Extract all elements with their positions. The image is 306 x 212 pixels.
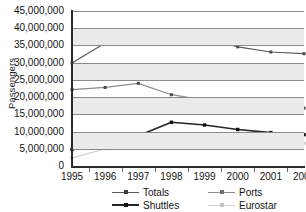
x-axis-tick-label: 2002 (293, 170, 306, 183)
x-axis-tick-mark (188, 168, 189, 172)
x-axis-tick-mark (122, 168, 123, 172)
legend-swatch-eurostar-icon (208, 200, 235, 210)
y-axis-tick-label: 20,000,000 (14, 92, 64, 102)
x-axis-tick-label: 2001 (260, 170, 282, 183)
y-axis-tick-label: 5,000,000 (20, 144, 65, 154)
y-axis-tick-label: 15,000,000 (14, 109, 64, 119)
plot-area (72, 11, 304, 166)
data-point (104, 86, 107, 89)
y-axis-line (71, 10, 73, 167)
legend-swatch-shuttles-icon (112, 200, 139, 210)
gridline (72, 149, 304, 150)
grid-band (72, 132, 304, 149)
x-axis-tick-label: 2000 (227, 170, 249, 183)
y-axis-tick-label: 10,000,000 (14, 127, 64, 137)
legend-label-ports: Ports (239, 187, 262, 198)
data-point (303, 52, 306, 55)
x-axis-tick-mark (89, 168, 90, 172)
y-axis-tick-label: 35,000,000 (14, 40, 64, 50)
grid-band (72, 97, 304, 114)
legend-swatch-ports-icon (208, 187, 235, 197)
y-axis-tick-labels: 45,000,00040,000,00035,000,00030,000,000… (0, 0, 68, 170)
x-axis-tick-label: 1999 (193, 170, 215, 183)
x-axis-tick-mark (254, 168, 255, 172)
y-axis-tick-label: 40,000,000 (14, 23, 64, 33)
legend-item-eurostar[interactable]: Eurostar (208, 199, 277, 211)
x-axis-tick-label: 1998 (160, 170, 182, 183)
gridline (72, 80, 304, 81)
grid-band (72, 28, 304, 45)
legend-label-shuttles: Shuttles (143, 200, 179, 211)
gridline (72, 63, 304, 64)
gridline (72, 114, 304, 115)
data-point (203, 123, 206, 126)
gridline (72, 11, 304, 12)
data-point (137, 82, 140, 85)
legend-item-ports[interactable]: Ports (208, 186, 262, 198)
x-axis-tick-mark (287, 168, 288, 172)
legend-item-totals[interactable]: Totals (112, 186, 169, 198)
x-axis-tick-mark (221, 168, 222, 172)
x-axis-tick-label: 1995 (61, 170, 83, 183)
gridline (72, 45, 304, 46)
gridline (72, 132, 304, 133)
x-axis-tick-labels: 19951996199719981999200020012002 (0, 170, 306, 186)
data-point (170, 121, 173, 124)
data-point (269, 50, 272, 53)
data-point (170, 93, 173, 96)
gridline (72, 28, 304, 29)
gridline (72, 97, 304, 98)
legend-label-eurostar: Eurostar (239, 200, 277, 211)
legend-item-shuttles[interactable]: Shuttles (112, 199, 179, 211)
y-axis-tick-label: 25,000,000 (14, 75, 64, 85)
x-axis-tick-mark (155, 168, 156, 172)
chart-legend: Totals Shuttles Ports Eurostar (0, 186, 306, 212)
grid-band (72, 63, 304, 80)
y-axis-tick-label: 45,000,000 (14, 6, 64, 16)
y-axis-tick-label: 30,000,000 (14, 58, 64, 68)
x-axis-tick-label: 1996 (94, 170, 116, 183)
chart-container: Passengers 45,000,00040,000,00035,000,00… (0, 0, 306, 212)
x-axis-tick-label: 1997 (127, 170, 149, 183)
legend-label-totals: Totals (143, 187, 169, 198)
legend-swatch-totals-icon (112, 187, 139, 197)
